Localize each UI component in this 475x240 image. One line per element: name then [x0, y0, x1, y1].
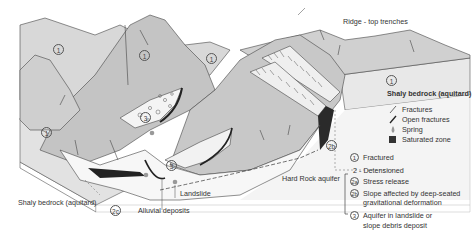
- spring-icon: [388, 125, 398, 134]
- legend-zone-fractured: 1 Fractured: [350, 153, 394, 162]
- marker-1-center: 1: [139, 50, 150, 61]
- legend-zone-detensioned: 2 - Detensioned: [353, 166, 404, 175]
- fracture-icon: [388, 105, 398, 114]
- zone-marker-2a: 2a: [350, 177, 359, 186]
- legend-zone-landslide-aquifer: 3 Aquifer in landslide or: [350, 211, 432, 220]
- legend-saturated-zone: Saturated zone: [388, 135, 451, 144]
- zone-marker-1: 1: [350, 153, 359, 162]
- ridge-label: Ridge - top trenches: [343, 18, 408, 25]
- marker-1-left: 1: [53, 44, 64, 55]
- shaly-bedrock-left-label: Shaly bedrock (aquitard): [18, 199, 96, 206]
- legend-zone-stress-release: 2a Stress release: [350, 177, 409, 186]
- legend-zone-slope-deformation-line2: gravitational deformation: [363, 199, 442, 206]
- hard-rock-aquifer-label: Hard Rock aquifer: [282, 175, 340, 182]
- marker-1-bedrock-right: 1: [386, 75, 397, 86]
- alluvial-deposits-label: Alluvial deposits: [138, 207, 190, 214]
- shaly-bedrock-right-label: Shaly bedrock (aquitard): [387, 90, 471, 97]
- legend-open-fractures: Open fractures: [388, 115, 450, 124]
- marker-3-landslide: 3: [166, 160, 177, 171]
- marker-2b-right: 2b: [326, 140, 337, 151]
- landslide-label: Landslide: [180, 190, 211, 197]
- marker-1-right: 1: [206, 53, 217, 64]
- marker-2c-left: 2c: [110, 205, 121, 216]
- legend-zone-slope-deformation: 2b Slope affected by deep-seated: [350, 189, 460, 198]
- zone-marker-3: 3: [350, 211, 359, 220]
- saturated-zone-icon: [388, 135, 398, 144]
- legend-zone-landslide-aquifer-line2: slope debris deposit: [363, 222, 427, 229]
- zone-marker-2b: 2b: [350, 189, 359, 198]
- marker-3-debris: 3: [140, 112, 151, 123]
- open-fracture-icon: [388, 115, 398, 124]
- legend-spring: Spring: [388, 125, 423, 134]
- legend-fractures: Fractures: [388, 105, 432, 114]
- marker-1-lower-left: 1: [41, 127, 52, 138]
